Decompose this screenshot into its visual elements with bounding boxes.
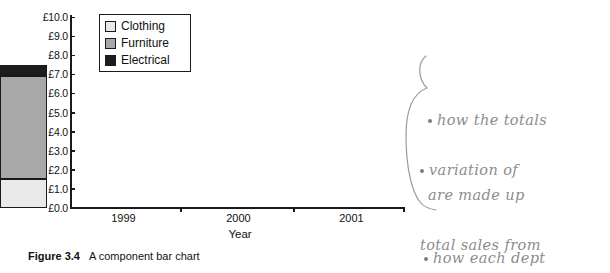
x-tick-mark — [293, 207, 295, 212]
figure-caption: Figure 3.4A component bar chart — [28, 250, 200, 262]
legend-swatch-clothing — [105, 21, 116, 32]
x-tick-label-2000: 2000 — [209, 212, 269, 224]
annotation-variation-line1: variation of — [429, 162, 518, 178]
chart-legend: Clothing Furniture Electrical — [99, 14, 191, 72]
legend-swatch-furniture — [105, 38, 116, 49]
y-tick-mark — [70, 208, 75, 210]
y-tick-mark — [70, 188, 75, 190]
y-tick-mark — [70, 150, 75, 152]
legend-label-clothing: Clothing — [121, 20, 165, 33]
y-tick-label: £9.0 — [24, 30, 68, 42]
y-tick-mark — [70, 36, 75, 38]
y-tick-mark — [70, 93, 75, 95]
legend-item-furniture: Furniture — [105, 35, 186, 52]
x-axis-line — [70, 207, 404, 209]
figure-caption-label: Figure 3.4 — [28, 250, 80, 262]
annotation-dept-contribution: how each dept contributes to total sales — [424, 196, 574, 273]
legend-swatch-electrical — [105, 55, 116, 66]
y-tick-mark — [70, 55, 75, 57]
figure-caption-text: A component bar chart — [89, 250, 200, 262]
legend-item-electrical: Electrical — [105, 52, 186, 69]
figure-component-bar-chart: £m £0.0£1.0£2.0£3.0£4.0£5.0£6.0£7.0£8.0£… — [0, 0, 610, 273]
x-tick-label-1999: 1999 — [94, 212, 154, 224]
bar-segment-electrical-2001 — [0, 65, 47, 76]
x-tick-label-2001: 2001 — [322, 212, 382, 224]
y-tick-mark — [70, 169, 75, 171]
bar-segment-furniture-2001 — [0, 76, 47, 179]
y-tick-label: £10.0 — [24, 11, 68, 23]
annotation-bullet-icon — [420, 169, 424, 173]
legend-item-clothing: Clothing — [105, 18, 186, 35]
legend-label-electrical: Electrical — [121, 54, 170, 67]
legend-label-furniture: Furniture — [121, 37, 169, 50]
y-tick-mark — [70, 112, 75, 114]
y-tick-mark — [70, 131, 75, 133]
y-tick-mark — [70, 74, 75, 76]
x-axis-label: Year — [175, 228, 305, 240]
annotation-dept-line1: how each dept — [433, 250, 546, 266]
y-tick-label: £8.0 — [24, 49, 68, 61]
y-tick-mark — [70, 17, 75, 19]
bar-segment-clothing-2001 — [0, 179, 47, 208]
annotation-bullet-icon — [424, 257, 428, 261]
x-tick-mark — [180, 207, 182, 212]
